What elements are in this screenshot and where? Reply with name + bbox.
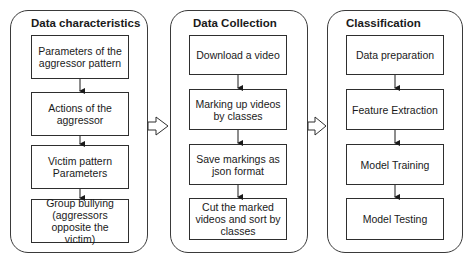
block-arrow-icon: [148, 117, 168, 135]
block-arrow-icon: [308, 117, 326, 135]
arrows-layer: [0, 0, 469, 265]
